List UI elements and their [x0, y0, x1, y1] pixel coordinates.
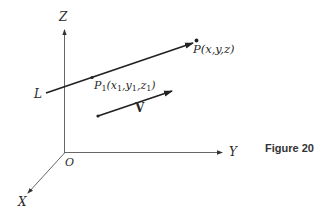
- point-P1-label: P1(x1,y1,z1): [94, 80, 156, 93]
- z-axis-label: Z: [59, 11, 67, 23]
- figure-caption: Figure 20: [265, 143, 314, 154]
- diagram-canvas: [0, 0, 328, 219]
- vector-V-label: V: [135, 102, 144, 114]
- line-L-label: L: [34, 88, 42, 100]
- vector-V-tail-dot: [96, 114, 99, 117]
- point-P-label: P(x,y,z): [193, 44, 235, 56]
- y-axis-label: Y: [229, 146, 237, 158]
- origin-label: O: [65, 157, 74, 168]
- x-axis: [28, 153, 65, 193]
- x-axis-label: X: [18, 196, 27, 208]
